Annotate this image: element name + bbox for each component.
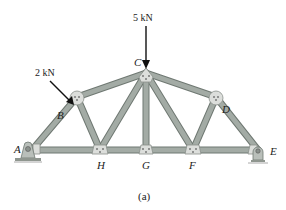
- joint-label-g: G: [142, 160, 150, 171]
- load-arrow-5kn: [142, 26, 150, 69]
- load-arrow-2kn: [50, 81, 74, 105]
- load-label-2kn: 2 kN: [35, 68, 55, 78]
- joint-label-f: F: [189, 160, 196, 171]
- joint-label-a: A: [14, 144, 21, 155]
- figure-caption: (a): [138, 191, 150, 202]
- joint-label-h: H: [97, 160, 105, 171]
- joint-label-b: B: [57, 110, 64, 121]
- joint-label-d: D: [222, 104, 230, 115]
- joint-label-e: E: [270, 146, 277, 157]
- joint-label-c: C: [134, 57, 141, 68]
- load-label-5kn: 5 kN: [133, 13, 153, 23]
- truss-diagram: [0, 0, 286, 210]
